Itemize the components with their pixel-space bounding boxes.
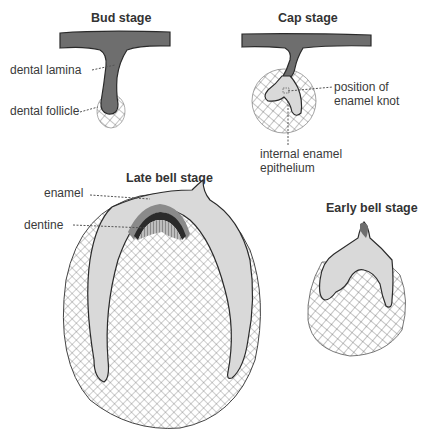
- dental-lamina-label: dental lamina: [10, 63, 82, 77]
- early-bell-stage-title: Early bell stage: [326, 201, 418, 215]
- dentine-label: dentine: [24, 218, 64, 232]
- iee-label-line1: internal enamel: [260, 147, 342, 161]
- cap-stage-title: Cap stage: [278, 11, 338, 25]
- enamel-label: enamel: [44, 186, 83, 200]
- enamel-knot-label-line1: position of: [334, 80, 389, 94]
- iee-label-line2: epithelium: [260, 161, 315, 175]
- cap-stage: Cap stage position of enamel knot intern…: [242, 11, 400, 175]
- dental-follicle-label: dental follicle: [10, 104, 80, 118]
- early-bell-stage: Early bell stage: [308, 201, 418, 356]
- bud-stage: Bud stage dental lamina dental follicle: [10, 11, 170, 128]
- dental-follicle-leader: [80, 107, 98, 112]
- enamel-knot-label-line2: enamel knot: [334, 94, 400, 108]
- cap-lamina-shape: [242, 34, 371, 78]
- bud-stage-title: Bud stage: [91, 11, 151, 25]
- tooth-development-diagram: Bud stage dental lamina dental follicle …: [0, 0, 431, 436]
- late-bell-stage: Late bell stage enamel dentine: [24, 171, 260, 428]
